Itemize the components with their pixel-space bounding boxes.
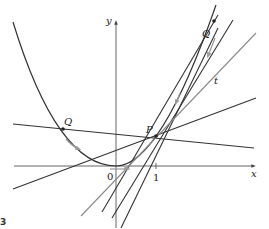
point-q-left-label: Q [64, 116, 72, 127]
secant-tangent-diagram: y x 0 1 P Q Q t 3 [0, 0, 269, 229]
point-q-left [61, 127, 65, 131]
point-q-right [212, 19, 216, 23]
x-axis-label: x [251, 168, 257, 179]
point-q-right-label: Q [202, 28, 210, 39]
tangent-line-t [81, 33, 256, 216]
tick-one-label: 1 [153, 172, 159, 183]
y-axis-label: y [105, 15, 112, 26]
point-p [154, 134, 158, 138]
secant-lines [13, 15, 256, 228]
secant-right-2 [112, 20, 233, 218]
arrow-right-lower [176, 93, 180, 103]
parabola-curve [13, 5, 216, 166]
tangent-label: t [214, 75, 219, 86]
secant-right-q [102, 15, 218, 212]
figure-number: 3 [0, 217, 6, 227]
secant-right-3 [121, 28, 218, 228]
origin-label: 0 [107, 171, 113, 182]
point-p-label: P [145, 124, 153, 135]
